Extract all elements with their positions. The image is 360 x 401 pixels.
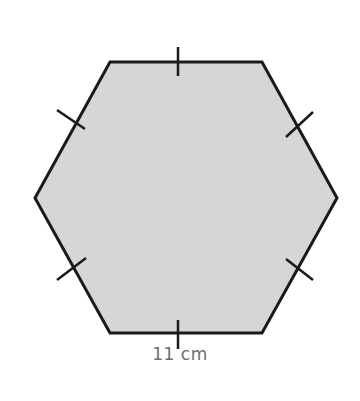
hexagon-diagram <box>0 0 360 401</box>
side-length-label: 11 cm <box>0 344 360 364</box>
hexagon-shape <box>35 62 337 333</box>
